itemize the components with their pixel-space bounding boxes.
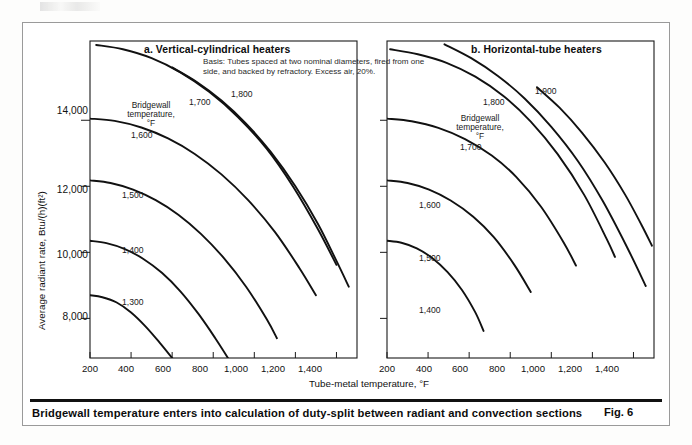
panel-b-curve-label-1800: 1,800	[483, 97, 505, 107]
panel-a-curve-label-1400: 1,400	[122, 245, 144, 255]
panel-a-curve-label-1700: 1,700	[189, 97, 211, 107]
panel-a-curve-label-1500: 1,500	[122, 190, 144, 200]
figure-page: a. Vertical-cylindrical heaters Basis: T…	[0, 0, 692, 445]
legend-heading-line3: °F	[118, 119, 184, 129]
figure-number: Fig. 6	[604, 406, 633, 418]
panel-a-xtick-1000: 1,000	[224, 363, 248, 374]
panel-a-curve-label-1600: 1,600	[131, 130, 153, 140]
panel-b-curve-label-1600: 1,600	[419, 200, 441, 210]
panel-a-curve-label-1300: 1,300	[122, 297, 144, 307]
basis-note: Basis: Tubes spaced at two nominal diame…	[203, 57, 435, 78]
panel-b-xtick-1200: 1,200	[558, 363, 582, 374]
panel-a-xtick-400: 400	[118, 363, 134, 374]
panel-b-curve-label-1900: 1,900	[535, 86, 557, 96]
panel-a-xtick-600: 600	[155, 363, 171, 374]
panel-a-ytick-10000: 10,000	[42, 249, 88, 260]
panel-a-ytick-14000: 14,000	[42, 105, 88, 116]
panel-b-xtick-800: 800	[489, 363, 505, 374]
panel-b-xtick-1400: 1,400	[595, 363, 619, 374]
panel-b-curve-label-1500: 1,500	[419, 253, 441, 263]
panel-a-curve-label-1800: 1,800	[231, 89, 253, 99]
panel-a-ytick-8000: 8,000	[42, 311, 88, 322]
panel-b-xtick-1000: 1,000	[521, 363, 545, 374]
y-axis-title: Average radiant rate, Btu/(h)(ft²)	[36, 191, 47, 330]
panel-b-title: b. Horizontal-tube heaters	[471, 44, 602, 55]
panel-a-title: a. Vertical-cylindrical heaters	[144, 44, 290, 55]
scan-artifact	[40, 2, 100, 11]
panel-b-xtick-400: 400	[416, 363, 432, 374]
panel-b-curve-label-1700: 1,700	[460, 142, 482, 152]
panel-b-legend-heading-line3: °F	[447, 132, 513, 142]
panel-b-xtick-600: 600	[452, 363, 468, 374]
panel-a-xtick-200: 200	[82, 363, 98, 374]
panel-b-curve-label-1400: 1,400	[419, 305, 441, 315]
panel-a-xtick-1200: 1,200	[261, 363, 285, 374]
panel-a-xtick-1400: 1,400	[298, 363, 322, 374]
caption-rule	[30, 399, 662, 402]
panel-a-ytick-12000: 12,000	[42, 184, 88, 195]
panel-a-xtick-800: 800	[192, 363, 208, 374]
x-axis-title: Tube-metal temperature, °F	[309, 378, 429, 389]
panel-b-xtick-200: 200	[379, 363, 395, 374]
figure-caption: Bridgewall temperature enters into calcu…	[32, 407, 582, 419]
